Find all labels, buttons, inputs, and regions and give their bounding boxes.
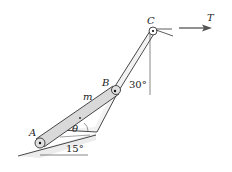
cable-tab [156,30,173,36]
linkage-diagram: A B C T m θ 15° 30° [0,0,232,172]
label-angle-vertical: 30° [129,79,147,90]
label-b: B [101,77,109,88]
pivot-b-pin [114,90,116,92]
label-theta: θ [72,123,78,134]
center-of-mass-dot [79,117,81,119]
label-a: A [28,127,36,138]
rod-ab [36,86,119,147]
label-angle-incline: 15° [66,143,84,154]
pivot-c-pin [152,30,154,32]
label-c: C [147,15,155,26]
label-force: T [207,12,215,23]
pivot-a-pin [39,142,41,144]
pivot-b [112,86,121,95]
label-mass: m [83,91,92,102]
